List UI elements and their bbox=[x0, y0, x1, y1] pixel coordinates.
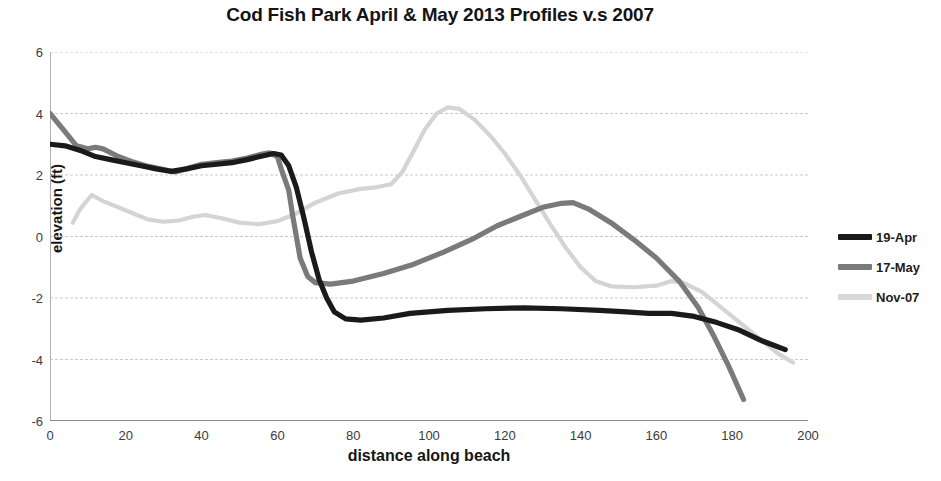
series-line-nov-07 bbox=[73, 107, 793, 362]
x-tick-label: 100 bbox=[418, 428, 440, 443]
y-tick-label: -4 bbox=[31, 352, 43, 367]
legend-label: Nov-07 bbox=[876, 290, 919, 305]
legend-label: 19-Apr bbox=[876, 230, 917, 245]
y-tick-label: 6 bbox=[36, 45, 43, 60]
legend-swatch-icon bbox=[838, 264, 872, 270]
y-tick-label: -6 bbox=[31, 414, 43, 429]
y-tick-label: 4 bbox=[36, 106, 43, 121]
x-tick-label: 80 bbox=[346, 428, 360, 443]
x-tick-label: 0 bbox=[46, 428, 53, 443]
y-tick-label: 2 bbox=[36, 168, 43, 183]
x-tick-label: 120 bbox=[494, 428, 516, 443]
legend-label: 17-May bbox=[876, 260, 920, 275]
legend-item-17-may[interactable]: 17-May bbox=[838, 252, 941, 282]
chart-container: Cod Fish Park April & May 2013 Profiles … bbox=[0, 0, 941, 481]
x-tick-label: 20 bbox=[119, 428, 133, 443]
x-tick-label: 40 bbox=[194, 428, 208, 443]
x-tick-label: 180 bbox=[721, 428, 743, 443]
plot-area: -6-4-20246 020406080100120140160180200 bbox=[50, 52, 808, 421]
y-tick-label: -2 bbox=[31, 291, 43, 306]
x-tick-label: 160 bbox=[646, 428, 668, 443]
plot-svg bbox=[50, 52, 808, 421]
chart-legend: 19-Apr17-MayNov-07 bbox=[838, 222, 941, 312]
legend-swatch-icon bbox=[838, 294, 872, 300]
series-line-17-may bbox=[50, 114, 744, 400]
x-tick-label: 200 bbox=[797, 428, 819, 443]
legend-swatch-icon bbox=[838, 234, 872, 240]
x-tick-label: 140 bbox=[570, 428, 592, 443]
x-axis-title: distance along beach bbox=[50, 447, 808, 465]
y-tick-label: 0 bbox=[36, 229, 43, 244]
legend-item-19-apr[interactable]: 19-Apr bbox=[838, 222, 941, 252]
x-tick-label: 60 bbox=[270, 428, 284, 443]
chart-title: Cod Fish Park April & May 2013 Profiles … bbox=[0, 4, 880, 26]
legend-item-nov-07[interactable]: Nov-07 bbox=[838, 282, 941, 312]
